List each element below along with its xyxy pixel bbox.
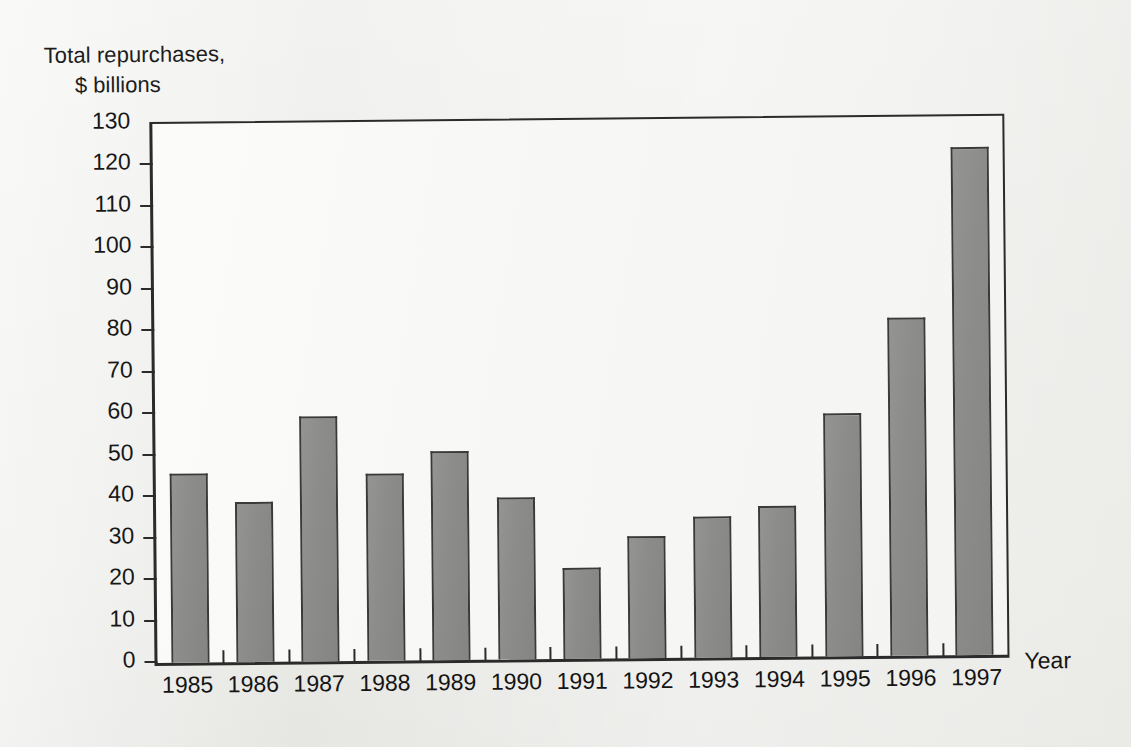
- x-axis-tick: [550, 647, 552, 660]
- bar-chart-figure: Total repurchases, $ billions 0102030405…: [0, 0, 1131, 747]
- bar-slot: [218, 123, 289, 663]
- y-axis-tick: 60: [142, 412, 155, 414]
- y-axis-tick-label: 90: [106, 273, 132, 300]
- y-axis-tick-label: 110: [94, 190, 131, 217]
- x-axis-label-1994: 1994: [746, 666, 812, 694]
- x-axis-label-1996: 1996: [878, 664, 944, 692]
- bar-slot: [152, 123, 223, 663]
- x-axis-tick: [288, 650, 290, 663]
- y-axis-tick-label: 80: [107, 315, 133, 342]
- y-axis-tick-label: 130: [92, 107, 131, 134]
- y-axis-title-line1: Total repurchases,: [44, 41, 226, 69]
- y-axis-title-line2: $ billions: [75, 72, 161, 99]
- x-axis-label-1988: 1988: [352, 669, 418, 697]
- y-axis-tick-label: 120: [92, 149, 131, 176]
- x-axis-tick: [419, 648, 421, 661]
- bar-1987: [300, 417, 340, 662]
- y-axis-tick: 0: [144, 661, 157, 663]
- bar-1990: [497, 498, 537, 660]
- x-axis-tick: [484, 648, 486, 661]
- bar-1985: [169, 474, 209, 663]
- bar-1986: [235, 502, 275, 662]
- y-axis-tick: 90: [141, 288, 154, 290]
- bar-slot: [872, 116, 943, 656]
- x-axis-label-1989: 1989: [418, 669, 484, 697]
- bar-slot: [741, 118, 812, 658]
- bar-slot: [348, 121, 419, 661]
- y-axis-tick-label: 0: [123, 646, 136, 673]
- y-axis-tick-label: 70: [107, 356, 133, 383]
- bar-series: [152, 116, 1007, 663]
- x-axis-title: Year: [1024, 647, 1071, 674]
- y-axis-tick: 110: [140, 205, 153, 207]
- y-axis-tick: 50: [142, 454, 155, 456]
- bar-1996: [887, 318, 928, 656]
- y-axis-tick: 80: [141, 329, 154, 331]
- x-axis-label-1986: 1986: [220, 671, 286, 699]
- bar-slot: [675, 118, 746, 658]
- bar-slot: [283, 122, 354, 662]
- x-axis-tick: [223, 650, 225, 663]
- y-axis-tick: 30: [143, 537, 156, 539]
- x-axis-tick: [942, 643, 944, 656]
- y-axis-tick: 20: [144, 578, 157, 580]
- bar-1997: [951, 147, 994, 655]
- x-axis-label-1997: 1997: [944, 664, 1010, 692]
- x-axis-tick: [615, 646, 617, 659]
- x-axis-label-1992: 1992: [615, 667, 681, 695]
- x-axis-label-1985: 1985: [155, 671, 221, 699]
- x-axis-tick-labels: 1985198619871988198919901991199219931994…: [155, 664, 1010, 699]
- y-axis-tick: 100: [141, 246, 154, 248]
- y-axis-tick-label: 10: [109, 605, 135, 632]
- x-axis-label-1993: 1993: [681, 666, 747, 694]
- x-axis-tick: [680, 646, 682, 659]
- plot-area: 0102030405060708090100110120130: [149, 114, 1009, 666]
- x-axis-tick: [877, 644, 879, 657]
- bar-1988: [366, 474, 406, 661]
- y-axis-tick: 10: [144, 619, 157, 621]
- y-axis-tick-label: 60: [107, 398, 133, 425]
- x-axis-label-1995: 1995: [812, 665, 878, 693]
- bar-1995: [823, 414, 863, 657]
- y-axis-tick-label: 40: [108, 481, 134, 508]
- bar-slot: [610, 119, 681, 659]
- x-axis-tick: [354, 649, 356, 662]
- y-axis-tick-label: 30: [109, 522, 135, 549]
- x-axis-label-1991: 1991: [549, 667, 615, 695]
- x-axis-tick: [746, 645, 748, 658]
- bar-1993: [693, 516, 732, 657]
- bar-slot: [545, 120, 616, 660]
- y-axis-tick: 70: [142, 371, 155, 373]
- bar-slot: [937, 116, 1008, 656]
- y-axis-tick-label: 50: [108, 439, 134, 466]
- y-axis-tick: 120: [140, 163, 153, 165]
- x-axis-tick: [811, 645, 813, 658]
- bar-1989: [431, 451, 471, 661]
- y-axis-tick-label: 100: [93, 232, 132, 259]
- bar-1994: [758, 505, 797, 657]
- bar-slot: [479, 120, 550, 660]
- x-axis-label-1987: 1987: [286, 670, 352, 698]
- y-axis-tick: 40: [143, 495, 156, 497]
- bar-1991: [563, 567, 602, 659]
- y-axis-tick-label: 20: [109, 563, 135, 590]
- bar-1992: [628, 536, 667, 659]
- bar-slot: [414, 121, 485, 661]
- x-axis-label-1990: 1990: [483, 668, 549, 696]
- bar-slot: [806, 117, 877, 657]
